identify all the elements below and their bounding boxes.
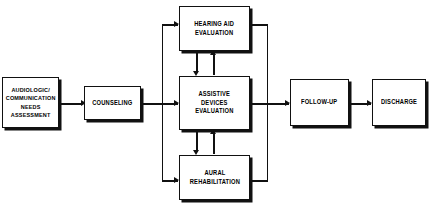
edge-assessment-counseling-line bbox=[59, 103, 83, 105]
node-label: ASSISTIVE DEVICES EVALUATION bbox=[194, 90, 236, 115]
edge-aural-return-line bbox=[252, 180, 268, 182]
node-label: AURAL REHABILITATION bbox=[188, 169, 242, 186]
edge-aural-assistive-line bbox=[213, 132, 215, 154]
node-label: FOLLOW-UP bbox=[300, 98, 340, 106]
edge-hearingaid-return-line bbox=[252, 24, 268, 26]
node-label: HEARING AID EVALUATION bbox=[193, 20, 236, 37]
node-follow-up[interactable]: FOLLOW-UP bbox=[290, 79, 349, 126]
flowchart-canvas: AUDIOLOGIC/ COMMUNICATION NEEDS ASSESSME… bbox=[0, 0, 430, 207]
edge-assistive-hearingaid-line bbox=[213, 53, 215, 75]
node-audiologic-communication-needs-assessment[interactable]: AUDIOLOGIC/ COMMUNICATION NEEDS ASSESSME… bbox=[2, 77, 59, 128]
node-aural-rehabilitation[interactable]: AURAL REHABILITATION bbox=[179, 155, 250, 200]
node-hearing-aid-evaluation[interactable]: HEARING AID EVALUATION bbox=[179, 6, 250, 51]
node-counseling[interactable]: COUNSELING bbox=[84, 86, 141, 120]
edge-hearingaid-assistive-line bbox=[196, 51, 198, 73]
node-discharge[interactable]: DISCHARGE bbox=[372, 79, 426, 126]
node-label: DISCHARGE bbox=[379, 98, 419, 106]
node-assistive-devices-evaluation[interactable]: ASSISTIVE DEVICES EVALUATION bbox=[179, 76, 250, 130]
edge-assistive-aural-line bbox=[196, 130, 198, 152]
node-label: COUNSELING bbox=[91, 99, 135, 107]
node-label: AUDIOLOGIC/ COMMUNICATION NEEDS ASSESSME… bbox=[4, 86, 57, 118]
